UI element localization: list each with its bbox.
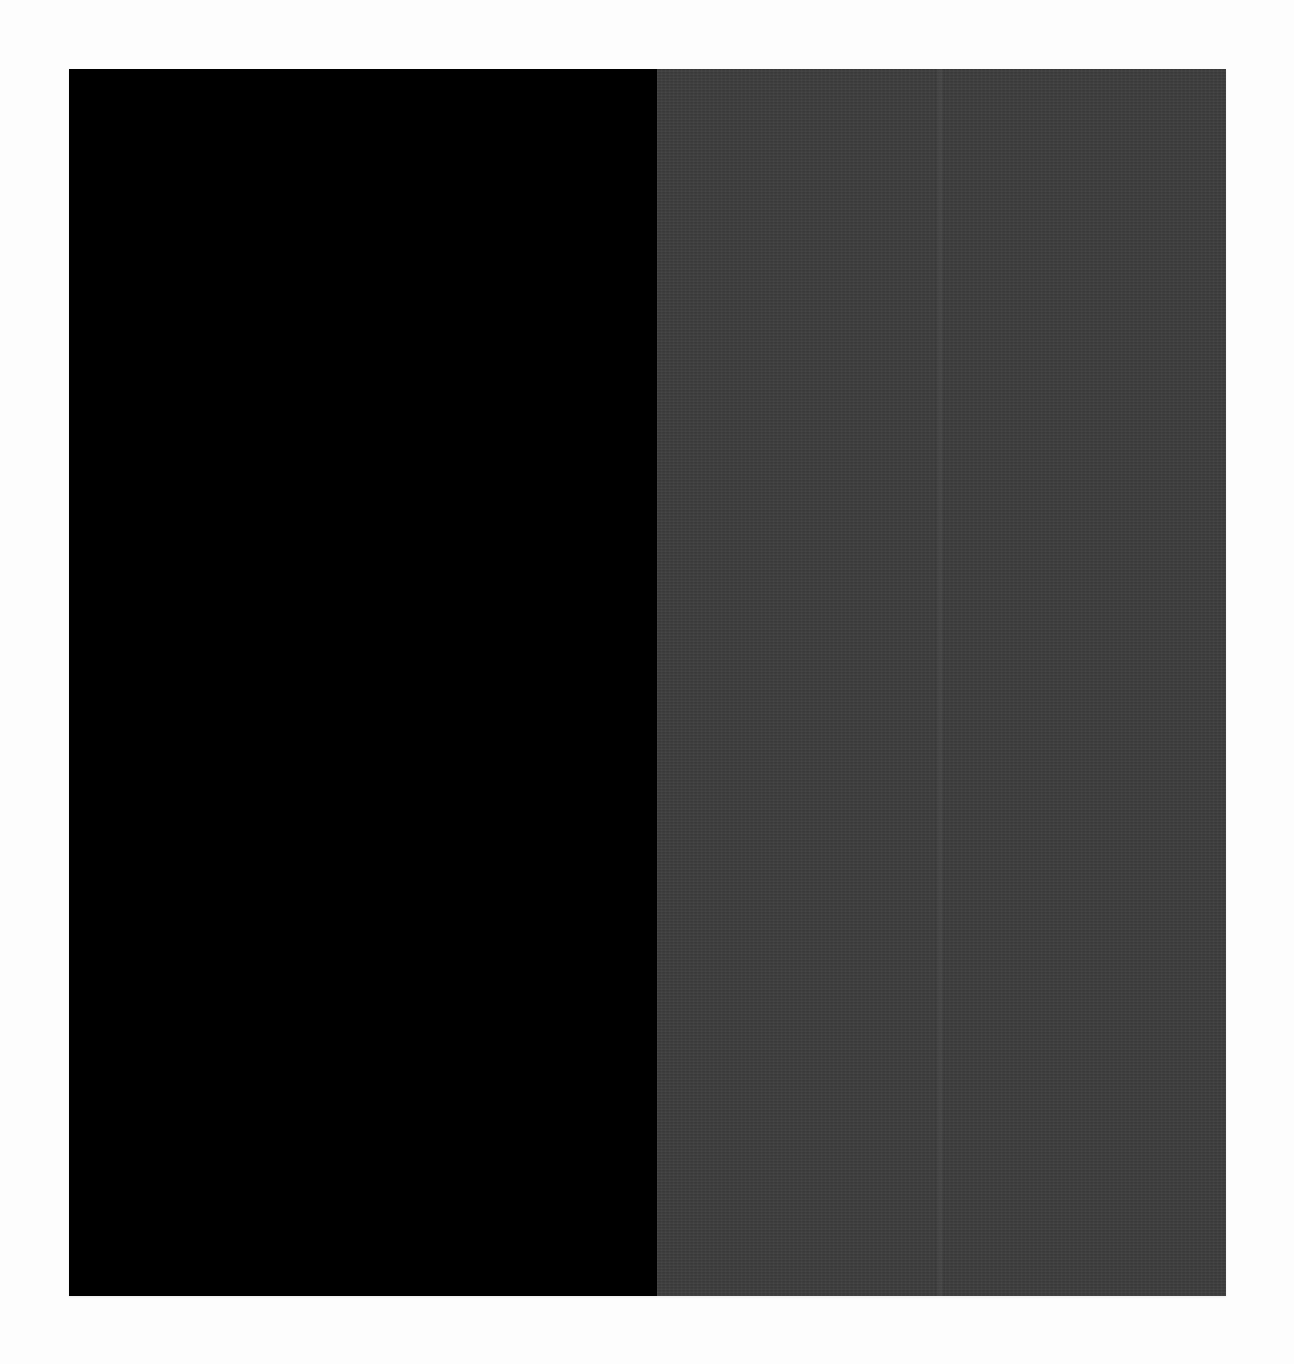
canvas-seam xyxy=(935,69,945,1296)
image-stage: Minimalist two-panel abstract painting: … xyxy=(0,0,1294,1364)
image-description: Minimalist two-panel abstract painting: … xyxy=(0,0,1,1)
black-panel xyxy=(69,69,657,1296)
painting xyxy=(69,69,1226,1296)
gray-linen-panel xyxy=(657,69,1226,1296)
